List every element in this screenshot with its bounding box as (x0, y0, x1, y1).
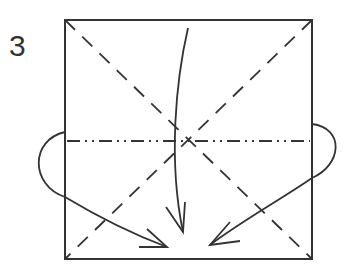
center-fold-arrow (166, 28, 188, 232)
right-fold-arrow (210, 124, 336, 245)
fold-diagram (0, 0, 351, 276)
left-fold-arrow (39, 132, 167, 247)
